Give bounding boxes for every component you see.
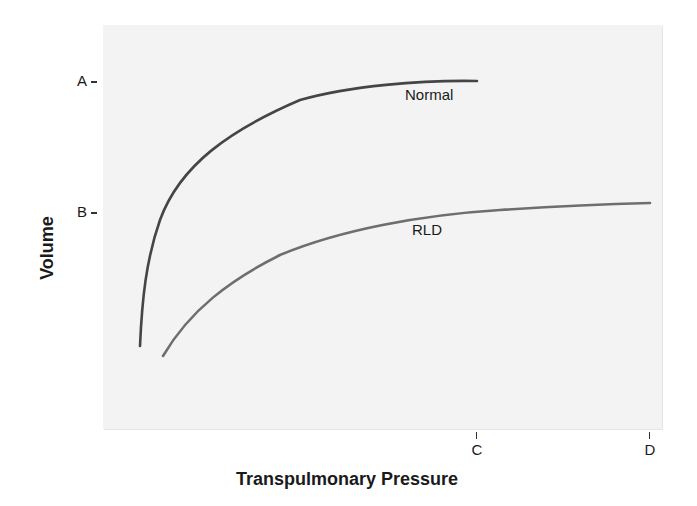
y-axis-label: Volume [37,216,58,280]
xtick-d-label: D [645,441,656,458]
ytick-b-mark [91,212,97,213]
rld-curve-label: RLD [412,221,442,238]
ytick-b-label: B [77,203,87,220]
curves-layer [0,0,697,506]
normal-curve-label: Normal [405,86,453,103]
x-axis-label: Transpulmonary Pressure [236,469,458,490]
xtick-c-label: C [472,441,483,458]
ytick-a-label: A [77,72,87,89]
normal-curve [140,81,477,346]
xtick-c-mark [476,432,477,439]
xtick-d-mark [649,432,650,439]
ytick-a: A [77,73,97,89]
ytick-a-mark [91,81,97,82]
ytick-b: B [77,204,97,220]
rld-curve [163,203,650,356]
